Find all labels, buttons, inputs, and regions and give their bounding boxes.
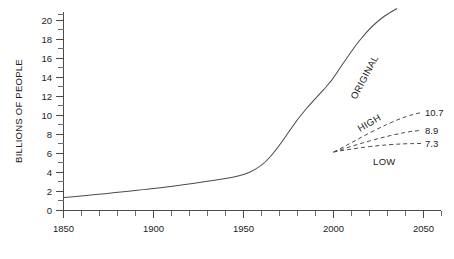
y-tick-label-10: 10 [41,110,52,121]
y-tick-label-12: 12 [41,91,52,102]
series-label-high: HIGH [356,112,383,134]
series-label-original: ORIGINAL [348,53,380,101]
y-tick-label-0: 0 [47,205,52,216]
x-tick-label-1850: 1850 [53,223,74,234]
y-axis-tick-labels: 0 2 4 6 8 10 12 14 16 18 20 [41,15,52,216]
x-tick-label-1900: 1900 [143,223,164,234]
series-end-values: 10.7 8.9 7.3 [425,107,444,149]
series-line-original [64,9,398,198]
x-axis-minor-ticks [82,211,442,216]
x-tick-label-2000: 2000 [323,223,344,234]
y-tick-label-8: 8 [47,129,52,140]
x-axis-tick-labels: 1850 1900 1950 2000 2050 [53,223,434,234]
series-label-low: LOW [373,156,396,167]
end-value-medium: 8.9 [425,125,438,136]
population-projection-chart: 0 2 4 6 8 10 12 14 16 18 20 [0,0,454,259]
x-tick-label-1950: 1950 [233,223,254,234]
end-value-low: 7.3 [425,138,438,149]
y-tick-label-2: 2 [47,186,52,197]
series-annotations: ORIGINAL HIGH LOW [348,53,396,167]
x-tick-label-2050: 2050 [413,223,434,234]
series-line-medium [334,130,422,152]
y-tick-label-14: 14 [41,72,52,83]
axes-group [64,12,442,211]
y-tick-label-6: 6 [47,148,52,159]
series-curves [64,9,422,198]
y-tick-label-20: 20 [41,15,52,26]
y-tick-label-4: 4 [47,167,52,178]
y-axis-title: BILLIONS OF PEOPLE [13,59,24,163]
end-value-high: 10.7 [425,107,444,118]
chart-canvas: 0 2 4 6 8 10 12 14 16 18 20 [0,0,454,259]
y-tick-label-16: 16 [41,53,52,64]
y-tick-label-18: 18 [41,34,52,45]
